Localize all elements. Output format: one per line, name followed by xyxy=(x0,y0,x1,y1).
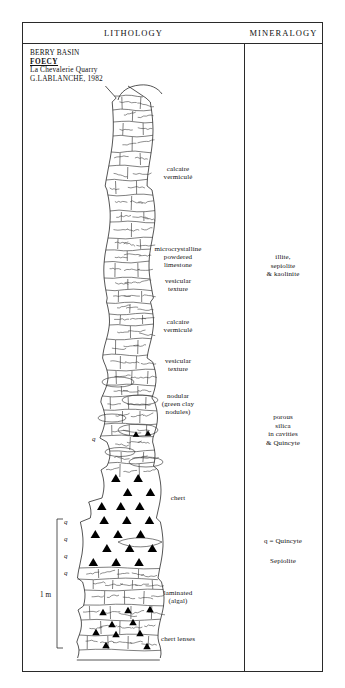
bedding-plane xyxy=(85,589,164,591)
vermiculate-mark xyxy=(115,444,129,446)
vermiculate-mark xyxy=(138,280,152,283)
vermiculate-mark xyxy=(107,595,119,598)
chert-triangle xyxy=(112,631,120,637)
vermiculate-mark xyxy=(135,157,148,159)
chert-triangle xyxy=(108,621,116,627)
bedding-plane xyxy=(104,277,150,279)
bedding-plane xyxy=(109,313,153,315)
vermiculate-mark xyxy=(133,173,152,175)
chert-triangle xyxy=(146,606,154,612)
vermiculate-mark xyxy=(86,572,99,574)
vermiculate-mark xyxy=(130,641,143,643)
bedding-plane xyxy=(106,179,147,181)
bedding-plane xyxy=(81,619,160,621)
column-top-cap xyxy=(118,85,162,100)
vermiculate-mark xyxy=(143,468,157,471)
brick-joint xyxy=(128,397,129,409)
chert-triangle xyxy=(116,502,126,510)
chert-triangle xyxy=(129,619,137,625)
vermiculate-mark xyxy=(138,269,153,270)
chert-triangle xyxy=(99,609,107,615)
vermiculate-mark xyxy=(139,333,155,336)
bedding-plane xyxy=(84,604,164,606)
vermiculate-mark xyxy=(110,188,120,190)
vermiculate-mark xyxy=(107,404,121,405)
bedding-plane xyxy=(79,567,160,569)
bedding-plane xyxy=(108,462,154,464)
vermiculate-mark xyxy=(125,282,138,283)
vermiculate-mark xyxy=(117,332,129,333)
vermiculate-mark xyxy=(124,295,140,296)
vermiculate-mark xyxy=(130,201,143,204)
chert-triangle xyxy=(97,502,107,510)
clay-nodule xyxy=(102,377,134,387)
vermiculate-mark xyxy=(117,573,129,574)
chert-triangle xyxy=(122,516,132,524)
vermiculate-mark xyxy=(115,375,131,377)
chert-triangle xyxy=(111,558,121,566)
vermiculate-mark xyxy=(123,470,137,472)
chert-triangle xyxy=(111,474,121,482)
stratigraphic-column-graphic xyxy=(0,0,345,688)
vermiculate-mark xyxy=(136,245,155,246)
column-right-edge xyxy=(128,86,164,658)
vermiculate-mark xyxy=(131,610,145,614)
vermiculate-mark xyxy=(141,376,157,378)
bedding-plane xyxy=(103,354,148,356)
vermiculate-mark xyxy=(110,268,122,270)
chert-triangle xyxy=(134,558,144,566)
vermiculate-mark xyxy=(120,129,133,130)
vermiculate-mark xyxy=(114,173,128,177)
chert-triangle xyxy=(102,544,112,552)
vermiculate-mark xyxy=(114,156,129,158)
vermiculate-mark xyxy=(141,363,156,364)
chert-triangle xyxy=(133,474,143,482)
vermiculate-mark xyxy=(137,103,154,107)
brick-joint xyxy=(130,437,131,450)
chert-triangle xyxy=(99,516,109,524)
vermiculate-mark xyxy=(138,309,154,310)
vermiculate-mark xyxy=(143,413,153,416)
vermiculate-mark xyxy=(132,627,142,628)
bedding-plane xyxy=(107,302,151,304)
vermiculate-mark xyxy=(146,585,165,586)
vermiculate-mark xyxy=(114,457,129,460)
vermiculate-mark xyxy=(141,575,157,577)
vermiculate-mark xyxy=(115,283,128,285)
vermiculate-mark xyxy=(115,257,128,258)
vermiculate-mark xyxy=(131,377,142,378)
vermiculate-mark xyxy=(114,319,129,320)
bedding-plane xyxy=(110,221,155,223)
chert-lens xyxy=(118,538,162,547)
bedding-plane xyxy=(113,109,152,111)
brick-joint xyxy=(123,123,124,135)
vermiculate-mark xyxy=(124,243,135,246)
bedding-plane xyxy=(107,338,152,340)
vermiculate-mark xyxy=(124,254,141,256)
brick-joint xyxy=(152,580,153,589)
bedding-plane xyxy=(111,151,151,153)
vermiculate-mark xyxy=(141,228,152,230)
vermiculate-mark xyxy=(138,115,154,118)
vermiculate-mark xyxy=(100,641,114,643)
vermiculate-mark xyxy=(106,468,119,470)
scale-bar xyxy=(57,519,63,648)
vermiculate-mark xyxy=(144,625,155,627)
bedding-plane xyxy=(79,649,161,651)
chert-triangle xyxy=(145,516,155,524)
chert-triangle xyxy=(145,430,152,436)
bedding-plane xyxy=(104,409,157,411)
chert-triangle xyxy=(89,558,99,566)
vermiculate-mark xyxy=(151,595,164,596)
vermiculate-mark xyxy=(127,229,139,231)
vermiculate-mark xyxy=(115,201,128,202)
vermiculate-mark xyxy=(92,596,104,597)
vermiculate-mark xyxy=(122,143,136,145)
vermiculate-mark xyxy=(125,362,139,364)
bedding-plane xyxy=(107,369,155,371)
vermiculate-mark xyxy=(124,269,140,271)
brick-joint xyxy=(147,371,148,384)
vermiculate-mark xyxy=(141,644,157,645)
chert-triangle xyxy=(124,607,132,613)
brick-joint xyxy=(136,356,137,369)
